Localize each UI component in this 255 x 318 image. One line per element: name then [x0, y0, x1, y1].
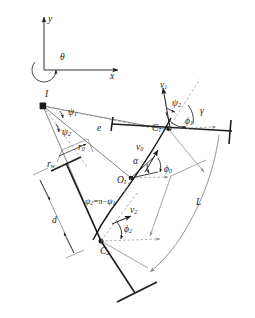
radius-0-label: r0: [78, 143, 85, 153]
centre-2-label: C2: [100, 247, 109, 257]
psi1-angle-arc: [60, 111, 63, 118]
psi-relation-label: ψ2=π−ψ1: [85, 197, 116, 207]
body-origin-label: OI: [117, 176, 126, 186]
wheel-radius-label: rw: [47, 160, 55, 170]
instant-centre-node: [40, 103, 47, 110]
psi2-label-at-C1: ψ2: [172, 99, 181, 109]
psi1-label: ψ1: [68, 108, 77, 118]
psi2-label-left: ψ2: [62, 128, 71, 138]
v0-subscript: 0: [140, 145, 143, 152]
d-arrow-bottom: [64, 233, 74, 253]
phi2-angle-arc: [117, 222, 122, 239]
phi1-subscript: 1: [190, 119, 193, 126]
d-arrow-top: [40, 180, 50, 200]
O-symbol: O: [117, 175, 124, 185]
velocity-v2-arrow: [112, 216, 131, 224]
d-extension-bottom: [66, 250, 84, 258]
phi2-label: ϕ2: [124, 225, 132, 235]
front-right-wheel: [229, 120, 231, 144]
body-origin-assembly: [124, 150, 168, 194]
velocity-v1-label: v1: [160, 81, 167, 91]
v2-subscript: 2: [134, 208, 137, 215]
phi0-label: ϕ0: [164, 165, 172, 175]
C2-subscript: 2: [106, 249, 109, 256]
instant-centre-label: I: [45, 90, 48, 100]
C1-subscript: 1: [158, 126, 161, 133]
rw-bracket-right: [88, 139, 93, 152]
psi2-at-C1-arc: [167, 108, 175, 112]
psi2-angle-arc: [56, 124, 59, 132]
offset-e-label: e: [97, 124, 101, 134]
diagram-canvas: y x θ I ψ1 ψ2 e r0 rw d v1 ψ2 γ ϕ1 C1 v0…: [0, 0, 255, 318]
psi2-subscript-left: 2: [68, 130, 71, 137]
trajectory-arcs: [93, 118, 219, 272]
psi1-subscript: 1: [74, 110, 77, 117]
x-axis-label: x: [110, 72, 114, 82]
theta-label: θ: [60, 53, 65, 63]
phi2-subscript: 2: [129, 227, 132, 234]
phi2-reference-dashed: [101, 239, 160, 241]
front-axle-assembly: [111, 79, 232, 172]
alpha-label: α: [133, 157, 138, 167]
d-extension-top: [33, 168, 48, 175]
velocity-v2-label: v2: [130, 206, 137, 216]
O-subscript: I: [124, 178, 126, 185]
phi0-angle-arc: [158, 158, 161, 172]
psi-relation-equals: =π−: [93, 196, 107, 206]
r0-subscript: 0: [82, 145, 85, 152]
arc-length-label: L: [196, 198, 201, 208]
axle-distance-label: d: [52, 216, 57, 226]
velocity-v1-arrow: [163, 88, 170, 128]
outer-arc-L: [150, 135, 219, 272]
velocity-v0-arrow: [145, 150, 158, 172]
front-axle-beam: [112, 124, 232, 131]
rw-subscript: w: [51, 162, 55, 169]
kinematic-diagram-svg: [0, 0, 255, 318]
velocity-v0-label: v0: [136, 143, 143, 153]
phi0-subscript: 0: [169, 167, 172, 174]
L-leader-lower: [150, 176, 171, 236]
ray-I-to-O-r0: [43, 106, 131, 178]
phi1-label: ϕ1: [185, 117, 193, 127]
v1-subscript: 1: [164, 83, 167, 90]
gamma-label: γ: [200, 107, 204, 117]
global-axes: [32, 17, 118, 82]
psi-relation-tail-subscript: 1: [113, 199, 116, 206]
psi2-subscript-C1: 2: [178, 101, 181, 108]
y-axis-label: y: [48, 15, 52, 25]
rear-lower-wheel-bar: [117, 282, 157, 302]
C1-to-outer-link: [169, 130, 204, 172]
centre-1-label: C1: [152, 124, 161, 134]
